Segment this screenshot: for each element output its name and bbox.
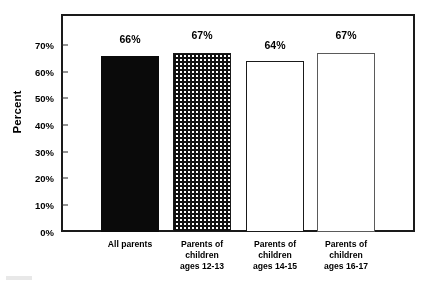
bar-value-label: 66% bbox=[101, 33, 159, 45]
cat-line: ages 12-13 bbox=[168, 261, 236, 272]
cat-line: ages 14-15 bbox=[241, 261, 309, 272]
bar-parents-ages-14-15[interactable] bbox=[246, 61, 304, 232]
bar-value-label: 67% bbox=[317, 29, 375, 41]
bar-all-parents[interactable] bbox=[101, 56, 159, 232]
cat-line: Parents of bbox=[241, 239, 309, 250]
cat-line: Parents of bbox=[168, 239, 236, 250]
x-category-label-ages-16-17: Parents of children ages 16-17 bbox=[312, 239, 380, 273]
cat-line: ages 16-17 bbox=[312, 261, 380, 272]
cat-line: children bbox=[241, 250, 309, 261]
x-category-label-all-parents: All parents bbox=[96, 239, 164, 250]
cat-line: children bbox=[168, 250, 236, 261]
cat-line: children bbox=[312, 250, 380, 261]
bar-value-label: 64% bbox=[246, 39, 304, 51]
cat-line: Parents of bbox=[312, 239, 380, 250]
x-category-label-ages-12-13: Parents of children ages 12-13 bbox=[168, 239, 236, 273]
bar-parents-ages-16-17[interactable] bbox=[317, 53, 375, 232]
x-category-label-ages-14-15: Parents of children ages 14-15 bbox=[241, 239, 309, 273]
bar-parents-ages-12-13[interactable] bbox=[173, 53, 231, 232]
page-edge-artifact bbox=[6, 276, 32, 280]
bar-value-label: 67% bbox=[173, 29, 231, 41]
cat-line: All parents bbox=[96, 239, 164, 250]
bar-chart: Percent 70% 60% 50% 40% 30% 20% 10% 0% 6… bbox=[0, 0, 429, 287]
